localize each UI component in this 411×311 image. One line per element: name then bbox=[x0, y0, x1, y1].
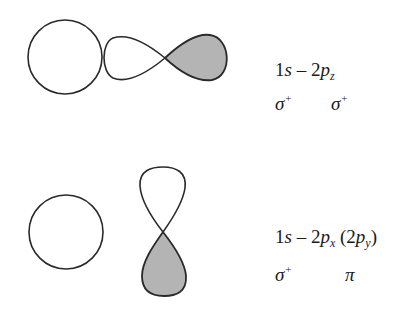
paren-close: ) bbox=[371, 226, 377, 247]
coefficient: 1 bbox=[275, 226, 285, 247]
coefficient: 2 bbox=[311, 59, 321, 80]
2pz-positive-lobe bbox=[104, 37, 165, 80]
coefficient: 2 bbox=[311, 226, 321, 247]
symmetry-superscript: + bbox=[284, 263, 291, 275]
coefficient: 1 bbox=[275, 59, 285, 80]
1s-orbital-circle bbox=[29, 195, 103, 269]
2pz-negative-lobe bbox=[165, 35, 227, 80]
symmetry-symbol: π bbox=[345, 264, 355, 285]
orbital-p: p bbox=[320, 59, 330, 80]
symmetry-symbol: σ bbox=[275, 264, 284, 285]
orbital-s: s bbox=[285, 59, 292, 80]
1s-orbital-circle bbox=[28, 20, 102, 94]
2px-positive-lobe bbox=[140, 167, 185, 232]
panel-1-symmetry-1: σ+ bbox=[275, 94, 292, 113]
panel-2-symmetry-2: π bbox=[345, 265, 355, 284]
panel-1s-2pz-drawing bbox=[28, 20, 227, 94]
symmetry-superscript: + bbox=[284, 92, 291, 104]
paren-open: (2 bbox=[335, 226, 356, 247]
panel-1-symmetry-2: σ+ bbox=[331, 94, 348, 113]
panel-1-overlap-label: 1s – 2pz bbox=[275, 60, 335, 79]
orbital-p: p bbox=[356, 226, 366, 247]
2px-negative-lobe bbox=[142, 232, 186, 296]
minus-sign: – bbox=[292, 59, 311, 80]
panel-2-overlap-label: 1s – 2px (2py) bbox=[275, 227, 377, 246]
orbital-p: p bbox=[320, 226, 330, 247]
symmetry-symbol: σ bbox=[331, 93, 340, 114]
symmetry-superscript: + bbox=[340, 92, 347, 104]
panel-2-symmetry-1: σ+ bbox=[275, 265, 292, 284]
minus-sign: – bbox=[292, 226, 311, 247]
panel-1s-2px-drawing bbox=[29, 167, 186, 296]
orbital-s: s bbox=[285, 226, 292, 247]
symmetry-symbol: σ bbox=[275, 93, 284, 114]
subscript: z bbox=[330, 69, 335, 83]
